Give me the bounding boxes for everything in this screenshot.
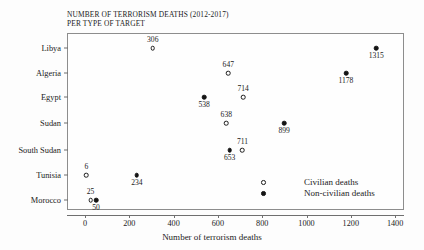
y-tick-mark (64, 175, 68, 176)
y-tick-mark (64, 200, 68, 201)
x-tick-mark (85, 215, 86, 218)
x-tick-label-1200: 1200 (343, 219, 359, 228)
data-point (226, 71, 231, 76)
chart-figure: NUMBER OF TERRORISM DEATHS (2012-2017) P… (0, 0, 424, 250)
y-tick-mark (64, 150, 68, 151)
data-point-label: 653 (224, 154, 235, 162)
chart-legend: Civilian deathsNon-civilian deaths (258, 177, 398, 203)
data-point (344, 71, 349, 76)
chart-title-line-1: NUMBER OF TERRORISM DEATHS (2012-2017) (67, 10, 229, 19)
data-point-label: 6 (84, 163, 88, 171)
data-point (94, 198, 99, 203)
data-point-label: 714 (237, 85, 248, 93)
y-tick-label-morocco: Morocco (31, 196, 61, 205)
data-point-label: 538 (198, 101, 209, 109)
data-point (224, 121, 229, 126)
y-tick-label-tunisia: Tunisia (36, 171, 61, 180)
data-point-label: 1315 (369, 52, 384, 60)
data-point-label: 50 (92, 204, 100, 212)
data-point-label: 25 (87, 188, 95, 196)
x-tick-label-400: 400 (167, 219, 179, 228)
chart-title-line-2: PER TYPE OF TARGET (67, 19, 229, 28)
data-point (88, 198, 93, 203)
x-tick-label-0: 0 (83, 219, 87, 228)
x-axis-title: Number of terrorism deaths (0, 232, 424, 242)
y-tick-mark (64, 73, 68, 74)
data-point-label: 638 (221, 111, 232, 119)
y-tick-label-algeria: Algeria (36, 69, 61, 78)
data-point-label: 306 (147, 36, 158, 44)
y-tick-label-libya: Libya (41, 44, 61, 53)
data-point (84, 173, 89, 178)
data-point-label: 647 (223, 61, 234, 69)
x-tick-label-200: 200 (123, 219, 135, 228)
y-tick-label-south-sudan: South Sudan (18, 146, 61, 155)
y-tick-label-egypt: Egypt (41, 93, 61, 102)
x-tick-mark (174, 215, 175, 218)
legend-item-non-civilian[interactable]: Non-civilian deaths (258, 188, 398, 199)
x-tick-mark (218, 215, 219, 218)
data-point-label: 711 (237, 138, 248, 146)
x-axis-line (67, 215, 404, 216)
x-tick-mark (307, 215, 308, 218)
legend-label: Non-civilian deaths (304, 188, 375, 198)
data-point (227, 148, 232, 153)
y-tick-label-sudan: Sudan (40, 119, 61, 128)
x-tick-label-1400: 1400 (387, 219, 403, 228)
x-tick-label-800: 800 (256, 219, 268, 228)
data-point (202, 95, 207, 100)
x-tick-mark (351, 215, 352, 218)
x-tick-label-600: 600 (212, 219, 224, 228)
y-tick-mark (64, 97, 68, 98)
filled-circle-icon (261, 191, 266, 196)
y-tick-mark (64, 123, 68, 124)
x-tick-label-1000: 1000 (298, 219, 314, 228)
data-point-label: 1178 (338, 77, 353, 85)
y-tick-mark (64, 48, 68, 49)
open-circle-icon (261, 180, 266, 185)
legend-item-civilian[interactable]: Civilian deaths (258, 177, 398, 188)
data-point-label: 899 (278, 127, 289, 135)
x-tick-mark (395, 215, 396, 218)
chart-title: NUMBER OF TERRORISM DEATHS (2012-2017) P… (67, 10, 229, 28)
legend-label: Civilian deaths (304, 177, 358, 187)
data-point (241, 95, 246, 100)
data-point (374, 46, 379, 51)
data-point (150, 46, 155, 51)
data-point-label: 234 (131, 179, 142, 187)
x-tick-mark (262, 215, 263, 218)
data-point (135, 173, 140, 178)
data-point (282, 121, 287, 126)
data-point (240, 148, 245, 153)
x-tick-mark (129, 215, 130, 218)
